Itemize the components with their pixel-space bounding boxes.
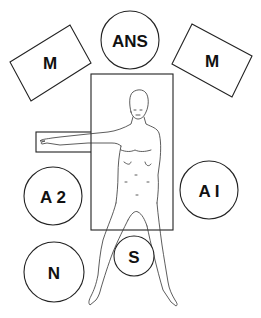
monitor-left-label: M xyxy=(43,54,57,73)
or-layout-diagram: M ANS M A 2 A I xyxy=(0,0,261,318)
assistant-1-station: A I xyxy=(180,161,238,219)
nurse-station: N xyxy=(24,242,84,302)
anesthesia-label: ANS xyxy=(112,32,148,51)
assistant-1-label: A I xyxy=(198,182,219,201)
monitor-left: M xyxy=(10,25,91,101)
surgeon-label: S xyxy=(128,248,139,267)
assistant-2-label: A 2 xyxy=(40,188,66,207)
monitor-right-label: M xyxy=(205,52,219,71)
anesthesia-station: ANS xyxy=(101,11,159,69)
surgeon-station: S xyxy=(114,236,154,276)
arm-board xyxy=(36,132,92,152)
assistant-2-station: A 2 xyxy=(24,167,82,225)
nurse-label: N xyxy=(48,264,60,283)
monitor-right: M xyxy=(172,24,252,97)
